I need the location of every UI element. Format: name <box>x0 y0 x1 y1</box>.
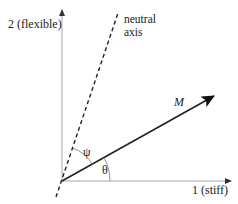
vertical-axis-label: 2 (flexible) <box>8 17 62 31</box>
horizontal-axis-label: 1 (stiff) <box>192 183 228 197</box>
bending-diagram: 2 (flexible) 1 (stiff) neutral axis M ψ … <box>0 0 238 204</box>
neutral-axis-label-line2: axis <box>124 26 143 38</box>
theta-label: θ <box>102 163 108 177</box>
moment-vector <box>62 96 214 181</box>
moment-label: M <box>173 95 185 109</box>
neutral-axis-label-line1: neutral <box>124 13 156 25</box>
psi-label: ψ <box>83 145 91 159</box>
